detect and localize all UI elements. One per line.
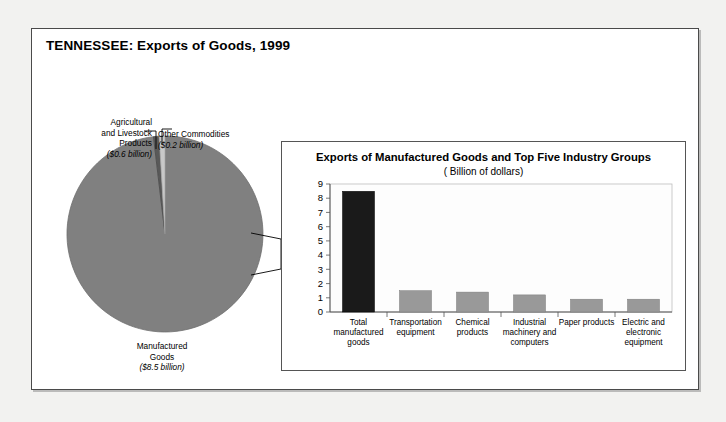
bar-chemical-products xyxy=(457,292,489,312)
svg-text:2: 2 xyxy=(318,278,323,289)
x-label-line: machinery and xyxy=(501,328,558,338)
x-label-line: Paper products xyxy=(558,318,615,328)
bar-total-manufactured-goods xyxy=(343,191,375,312)
pie-label-agricultural-line2: and Livestock xyxy=(60,128,152,139)
svg-text:0: 0 xyxy=(318,306,323,317)
bar-electric-and-electronic-equipment xyxy=(628,299,660,312)
x-label-total-manufactured-goods: Total manufactured goods xyxy=(330,318,387,348)
x-label-line: equipment xyxy=(615,338,672,348)
bar-paper-products xyxy=(571,299,603,312)
svg-text:8: 8 xyxy=(318,192,323,203)
bar-transportation-equipment xyxy=(400,291,432,312)
pie-label-other-line1: Other Commodities xyxy=(158,129,262,140)
figure-root: TENNESSEE: Exports of Goods, 1999 Agricu… xyxy=(0,0,726,422)
plot-area-frame xyxy=(330,184,672,312)
x-label-chemical-products: Chemical products xyxy=(444,318,501,338)
x-axis-category-separators xyxy=(387,312,615,317)
pie-label-manufactured-line2: Goods xyxy=(102,352,222,363)
x-label-line: manufactured xyxy=(330,328,387,338)
x-label-line: computers xyxy=(501,338,558,348)
pie-label-agricultural: Agricultural and Livestock Products ($0.… xyxy=(60,117,152,159)
svg-text:6: 6 xyxy=(318,221,323,232)
page-title: TENNESSEE: Exports of Goods, 1999 xyxy=(46,38,290,53)
x-label-line: Transportation xyxy=(387,318,444,328)
x-label-line: products xyxy=(444,328,501,338)
x-label-electric-and-electronic-equipment: Electric and electronic equipment xyxy=(615,318,672,348)
svg-text:4: 4 xyxy=(318,249,323,260)
svg-text:7: 7 xyxy=(318,207,323,218)
pie-chart-svg xyxy=(32,59,302,389)
x-label-industrial-machinery-and-computers: Industrial machinery and computers xyxy=(501,318,558,348)
x-label-line: Total xyxy=(330,318,387,328)
pie-label-agricultural-line3: Products xyxy=(60,138,152,149)
bar-industrial-machinery-and-computers xyxy=(514,295,546,312)
pie-label-agricultural-line1: Agricultural xyxy=(60,117,152,128)
pie-chart-area: Agricultural and Livestock Products ($0.… xyxy=(32,59,302,389)
pie-label-manufactured-amount: ($8.5 billion) xyxy=(102,362,222,373)
pie-label-other-commodities: Other Commodities ($0.2 billion) xyxy=(158,129,262,150)
x-label-line: equipment xyxy=(387,328,444,338)
pie-label-manufactured-line1: Manufactured xyxy=(102,341,222,352)
svg-text:9: 9 xyxy=(318,178,323,189)
svg-text:3: 3 xyxy=(318,264,323,275)
x-label-paper-products: Paper products xyxy=(558,318,615,328)
x-label-transportation-equipment: Transportation equipment xyxy=(387,318,444,338)
y-axis-ticks: 0 1 2 3 4 5 6 7 8 xyxy=(318,178,330,317)
pie-label-agricultural-amount: ($0.6 billion) xyxy=(60,149,152,160)
svg-text:5: 5 xyxy=(318,235,323,246)
pie-label-other-amount: ($0.2 billion) xyxy=(158,140,262,151)
x-label-line: electronic xyxy=(615,328,672,338)
x-label-line: goods xyxy=(330,338,387,348)
pie-label-manufactured: Manufactured Goods ($8.5 billion) xyxy=(102,341,222,373)
chart-panel: TENNESSEE: Exports of Goods, 1999 Agricu… xyxy=(31,28,699,390)
x-label-line: Industrial xyxy=(501,318,558,328)
x-label-line: Chemical xyxy=(444,318,501,328)
svg-text:1: 1 xyxy=(318,292,323,303)
x-label-line: Electric and xyxy=(615,318,672,328)
bar-chart-panel: Exports of Manufactured Goods and Top Fi… xyxy=(281,141,686,371)
